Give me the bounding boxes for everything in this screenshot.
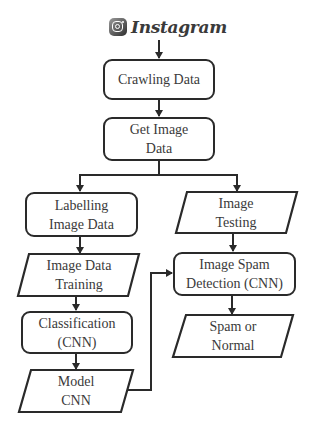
- node-crawling-data: Crawling Data: [103, 59, 215, 100]
- node-label-line2: Training: [55, 275, 103, 294]
- node-labelling-image-data: Labelling Image Data: [25, 192, 138, 237]
- instagram-label: Instagram: [131, 17, 227, 37]
- node-label: Crawling Data: [118, 70, 200, 89]
- node-label-line1: Image Spam: [199, 255, 269, 274]
- edge-split-testing: [159, 175, 237, 191]
- node-label-line1: Labelling: [55, 196, 109, 215]
- node-label-line1: Model: [58, 372, 95, 391]
- node-label-line1: Classification: [39, 314, 116, 333]
- node-label-line2: Image Data: [49, 215, 114, 234]
- node-label-line2: Normal: [212, 336, 255, 355]
- node-label-line1: Image Data: [47, 256, 112, 275]
- node-label-line2: (CNN): [58, 333, 97, 352]
- node-label-line1: Get Image: [130, 120, 189, 139]
- node-classification-cnn: Classification (CNN): [21, 311, 133, 354]
- node-image-data-training: Image Data Training: [22, 254, 136, 296]
- node-spam-or-normal: Spam or Normal: [178, 315, 288, 357]
- node-label-line1: Image: [219, 194, 254, 213]
- node-image-testing: Image Testing: [180, 192, 292, 233]
- node-model-cnn: Model CNN: [24, 370, 128, 412]
- node-label-line2: Data: [146, 139, 172, 158]
- edge-split-labelling: [80, 175, 159, 191]
- instagram-icon: [109, 18, 127, 36]
- node-label-line2: Detection (CNN): [186, 274, 283, 293]
- node-image-spam-detection: Image Spam Detection (CNN): [173, 252, 296, 296]
- instagram-logo: Instagram: [109, 17, 227, 37]
- node-get-image-data: Get Image Data: [103, 117, 215, 161]
- node-label-line2: Testing: [215, 213, 256, 232]
- node-label-line1: Spam or: [209, 317, 256, 336]
- node-label-line2: CNN: [61, 391, 91, 410]
